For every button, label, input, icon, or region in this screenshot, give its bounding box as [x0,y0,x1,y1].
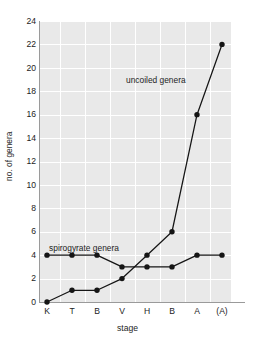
gridline-vertical [210,21,211,302]
y-axis-tick-label: 4 [2,251,36,260]
gridline-horizontal [40,115,231,116]
gridline-horizontal [40,44,231,45]
gridline-horizontal [40,68,231,69]
x-axis-tick-label: (A) [207,307,237,316]
y-axis-tick-label: 8 [2,204,36,213]
y-axis-tick-label: 2 [2,274,36,283]
line-chart: 024681012141618202224 KTBVHBA(A) no. of … [0,0,255,349]
y-axis-tick-label: 20 [2,64,36,73]
gridline-horizontal [40,208,231,209]
gridline-horizontal [40,255,231,256]
y-axis-tick-label: 18 [2,87,36,96]
x-axis-title: stage [0,324,255,333]
y-axis-tick-label: 24 [2,17,36,26]
gridline-vertical [110,21,111,302]
gridline-vertical [235,21,236,302]
gridline-vertical [85,21,86,302]
gridline-horizontal [40,185,231,186]
y-axis-tick-label: 22 [2,40,36,49]
gridline-vertical [160,21,161,302]
gridline-horizontal [40,232,231,233]
gridline-horizontal [40,138,231,139]
gridline-vertical [185,21,186,302]
gridline-horizontal [40,279,231,280]
plot-area [40,21,231,302]
series-label-uncoiled-genera: uncoiled genera [126,75,186,85]
gridline-vertical [135,21,136,302]
y-axis-tick-label: 0 [2,298,36,307]
y-axis-tick-label: 6 [2,227,36,236]
y-axis-line [39,21,40,303]
y-axis-title: no. of genera [5,116,13,196]
gridline-horizontal [40,162,231,163]
x-axis-line [39,302,245,303]
gridline-horizontal [40,91,231,92]
gridline-horizontal [40,21,231,22]
series-label-spirogyrate-genera: spirogyrate genera [48,243,120,253]
gridline-vertical [60,21,61,302]
